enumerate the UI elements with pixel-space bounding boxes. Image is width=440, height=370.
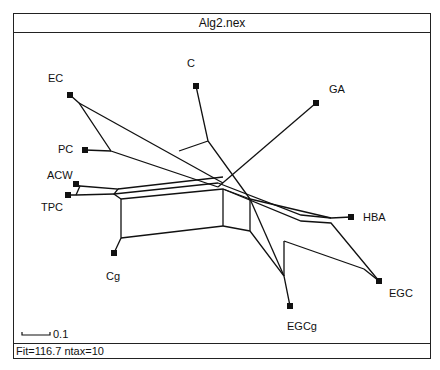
status-bar: Fit=116.7 ntax=10: [14, 343, 430, 358]
scale-bar: 0.1: [22, 328, 68, 340]
taxon-label: EC: [48, 72, 63, 84]
split-network-canvas[interactable]: EC C GA PC ACW TPC Cg HBA EGC EGCg 0.1: [14, 33, 430, 345]
taxon-label: ACW: [47, 169, 73, 181]
taxon-label: EGC: [389, 287, 413, 299]
taxon-label: EGCg: [287, 320, 317, 332]
taxon-label: Cg: [106, 270, 120, 282]
scale-bar-label: 0.1: [53, 328, 68, 340]
split-network-graph: EC C GA PC ACW TPC Cg HBA EGC EGCg 0.1: [14, 33, 432, 345]
taxon-label: HBA: [363, 211, 386, 223]
taxon-label: GA: [329, 83, 346, 95]
network-window: Alg2.nex: [13, 13, 431, 359]
taxon-label: PC: [58, 143, 73, 155]
taxon-label: C: [187, 57, 195, 69]
taxon-label: TPC: [41, 201, 63, 213]
window-title: Alg2.nex: [14, 14, 430, 33]
